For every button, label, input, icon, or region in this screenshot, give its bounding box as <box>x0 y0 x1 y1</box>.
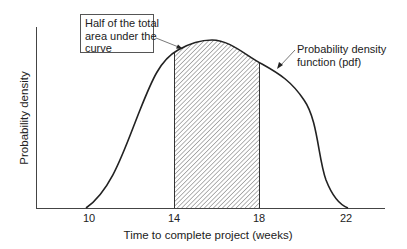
x-axis-label: Time to complete project (weeks) <box>124 229 293 241</box>
pdf-annotation: Probability density function (pdf) <box>297 43 386 69</box>
pdf-line-1: Probability density <box>297 43 386 56</box>
half-area-callout: Half of the total area under the curve <box>80 14 154 53</box>
y-axis-label: Probability density <box>18 71 30 164</box>
pdf-diagram: Half of the total area under the curve P… <box>0 0 407 249</box>
x-tick-10: 10 <box>83 212 95 224</box>
pdf-line-2: function (pdf) <box>297 56 386 69</box>
x-tick-22: 22 <box>340 212 352 224</box>
pdf-arrow <box>280 50 295 66</box>
x-tick-14: 14 <box>168 212 180 224</box>
callout-line-1: Half of the total <box>85 17 153 30</box>
shaded-region <box>174 20 259 209</box>
x-tick-18: 18 <box>253 212 265 224</box>
callout-line-2: area under the <box>85 30 153 43</box>
callout-line-3: curve <box>85 42 153 55</box>
